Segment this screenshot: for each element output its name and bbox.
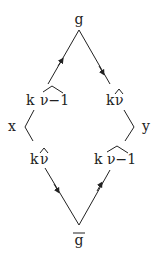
edge-top-right xyxy=(79,30,110,84)
svg-text:ν−1: ν−1 xyxy=(107,151,136,167)
edge-bottom-right xyxy=(79,170,110,225)
node-right-upper: k ν xyxy=(106,89,124,108)
svg-text:k: k xyxy=(30,151,39,167)
svg-text:ν−1: ν−1 xyxy=(40,92,69,108)
node-left-upper: k ν−1 xyxy=(26,86,69,108)
node-left-side-label: x xyxy=(8,118,16,134)
diamond-diagram: g k ν−1 k ν x y k ν k ν−1 xyxy=(0,0,159,257)
svg-text:k: k xyxy=(106,92,115,108)
right-bracket xyxy=(124,110,134,141)
svg-text:ν: ν xyxy=(115,92,124,108)
svg-text:g: g xyxy=(75,232,84,248)
node-bottom: g xyxy=(73,232,85,248)
edge-top-left xyxy=(48,30,79,84)
svg-text:k: k xyxy=(26,92,35,108)
svg-text:ν: ν xyxy=(40,151,49,167)
node-top-label: g xyxy=(75,11,84,27)
node-right-lower: k ν−1 xyxy=(94,146,136,167)
node-left-lower: k ν xyxy=(30,148,49,167)
edge-left-bottom xyxy=(45,168,79,225)
left-bracket xyxy=(25,110,34,141)
node-right-side-label: y xyxy=(141,118,150,134)
svg-text:k: k xyxy=(94,151,103,167)
